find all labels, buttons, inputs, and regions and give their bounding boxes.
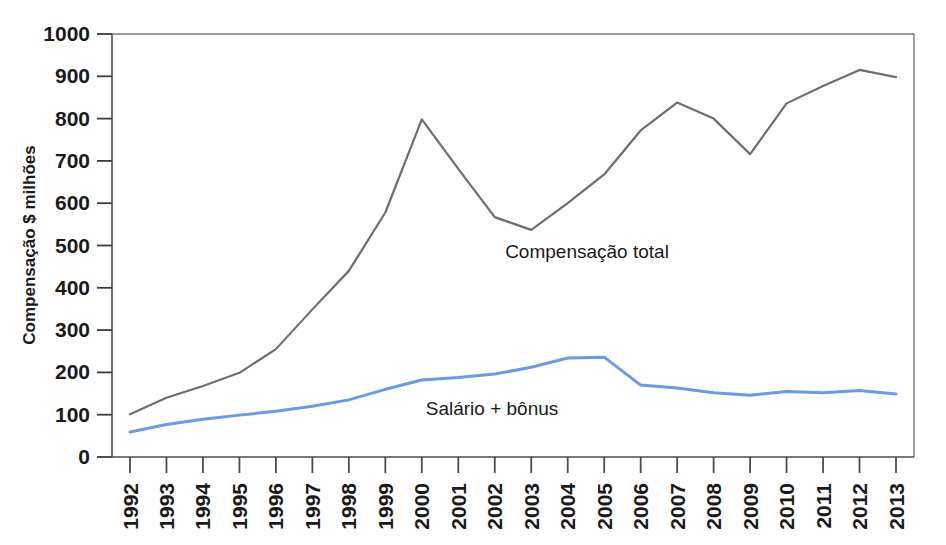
annotation-compensacao-total: Compensação total [505,241,669,262]
chart-canvas: 1000 900 800 700 600 500 400 300 200 100… [0,0,946,545]
y-label-200: 200 [55,360,90,383]
x-label-2002: 2002 [483,483,506,530]
x-label-2010: 2010 [775,483,798,530]
x-label-2008: 2008 [702,483,725,530]
y-label-300: 300 [55,318,90,341]
x-label-2000: 2000 [410,483,433,530]
y-label-1000: 1000 [43,22,90,45]
x-label-1997: 1997 [301,483,324,530]
x-label-1994: 1994 [191,483,214,530]
x-label-1993: 1993 [155,483,178,530]
x-label-1998: 1998 [337,483,360,530]
x-label-1996: 1996 [264,483,287,530]
y-label-400: 400 [55,276,90,299]
y-label-500: 500 [55,234,90,257]
x-label-2004: 2004 [556,483,579,530]
x-label-2012: 2012 [848,483,871,530]
y-axis-title: Compensação $ milhões [20,145,39,344]
x-label-1992: 1992 [119,483,142,530]
x-label-2007: 2007 [666,483,689,530]
y-label-800: 800 [55,107,90,130]
line-chart: 1000 900 800 700 600 500 400 300 200 100… [0,0,946,545]
y-label-0: 0 [78,445,90,468]
x-label-1999: 1999 [374,483,397,530]
y-label-900: 900 [55,64,90,87]
x-label-2013: 2013 [885,483,908,530]
x-label-2006: 2006 [629,483,652,530]
chart-background [0,0,946,545]
x-label-2001: 2001 [447,483,470,530]
y-label-600: 600 [55,191,90,214]
x-label-2003: 2003 [520,483,543,530]
x-label-1995: 1995 [228,483,251,530]
annotation-salario-bonus: Salário + bônus [426,398,559,419]
x-label-2005: 2005 [593,483,616,530]
x-label-2009: 2009 [739,483,762,530]
y-label-700: 700 [55,149,90,172]
y-label-100: 100 [55,403,90,426]
x-label-2011: 2011 [812,483,835,529]
